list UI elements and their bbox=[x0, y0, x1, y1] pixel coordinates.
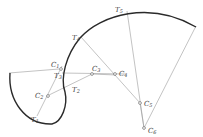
center-c2-marker bbox=[47, 95, 50, 98]
label-c6: C6 bbox=[148, 127, 157, 135]
compound-curve-diagram: C1 C2 C3 C4 C5 C6 T1 T2 T3 T4 T5 bbox=[0, 0, 203, 137]
center-c1-marker bbox=[60, 68, 63, 71]
label-t1: T1 bbox=[31, 116, 39, 124]
label-c2: C2 bbox=[35, 92, 44, 100]
center-c6-marker bbox=[143, 127, 146, 130]
construction-lines bbox=[9, 11, 196, 128]
label-t5: T5 bbox=[115, 6, 123, 14]
label-c3: C3 bbox=[92, 65, 101, 73]
label-c4: C4 bbox=[119, 70, 128, 78]
center-c4-marker bbox=[114, 73, 117, 76]
label-t2: T2 bbox=[72, 86, 80, 94]
label-c5: C5 bbox=[144, 100, 153, 108]
compound-curve bbox=[10, 13, 196, 124]
label-t4: T4 bbox=[72, 34, 80, 42]
center-c5-marker bbox=[139, 102, 142, 105]
center-c3-marker bbox=[91, 73, 94, 76]
label-c1: C1 bbox=[51, 61, 60, 69]
label-t3: T3 bbox=[54, 72, 62, 80]
